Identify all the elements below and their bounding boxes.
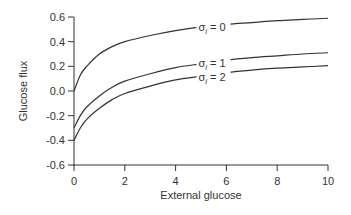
x-tick-label: 4 <box>173 175 179 187</box>
x-tick-label: 10 <box>322 175 334 187</box>
y-tick-label: 0.2 <box>50 60 65 72</box>
x-tick-label: 8 <box>274 175 280 187</box>
y-tick-label: -0.2 <box>46 110 65 122</box>
y-tick-label: 0.0 <box>50 85 65 97</box>
x-axis-label: External glucose <box>160 189 241 201</box>
series-annotation-0: σi = 0 <box>198 21 225 36</box>
y-tick-label: -0.4 <box>46 134 65 146</box>
x-tick-label: 0 <box>71 175 77 187</box>
series-annotation-2: σi = 2 <box>198 71 225 86</box>
y-tick-label: 0.6 <box>50 11 65 23</box>
y-tick-label: 0.4 <box>50 36 65 48</box>
y-axis-label: Glucose flux <box>17 60 29 121</box>
x-tick-label: 6 <box>223 175 229 187</box>
series-annotation-1: σi = 1 <box>198 57 225 72</box>
y-tick-label: -0.6 <box>46 159 65 171</box>
line-chart: 0.60.40.20.0-0.2-0.4-0.60246810External … <box>0 0 351 215</box>
x-tick-label: 2 <box>122 175 128 187</box>
